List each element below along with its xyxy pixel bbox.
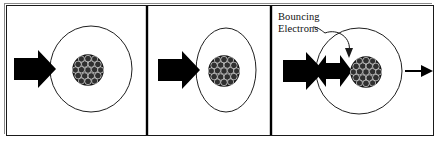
- bouncing-electrons-label-line2: Electrons: [278, 23, 319, 35]
- nucleus-cluster: [350, 56, 382, 88]
- panel-narrow-ellipse: [158, 28, 256, 112]
- diagram-canvas: [0, 0, 442, 144]
- nucleus-cluster: [208, 55, 240, 87]
- panel-large-circle: [14, 26, 132, 112]
- outgoing-beam-arrowhead: [421, 65, 433, 77]
- incoming-beam-arrow: [14, 50, 56, 88]
- bouncing-electrons-arrow: [314, 55, 352, 87]
- incoming-beam-arrow: [158, 51, 200, 89]
- nucleus-cluster: [72, 54, 104, 86]
- bouncing-electrons-label-line1: Bouncing: [278, 11, 320, 23]
- scattering-figure: Bouncing Electrons: [0, 0, 442, 144]
- label-leader-arrowhead: [345, 48, 353, 58]
- panel-bouncing-electrons: [283, 27, 433, 114]
